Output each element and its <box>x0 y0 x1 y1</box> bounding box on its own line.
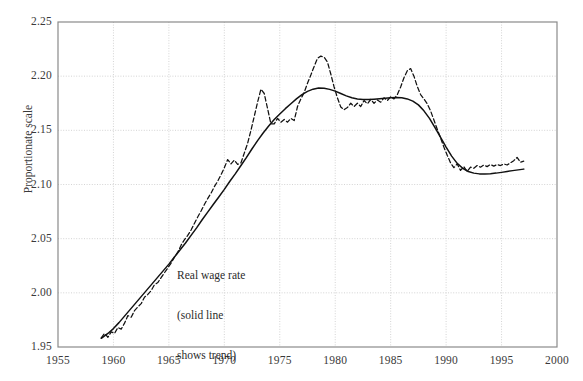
x-tick-label: 1990 <box>432 354 460 366</box>
x-tick-label: 1975 <box>266 354 294 366</box>
x-tick-label: 1960 <box>99 354 127 366</box>
y-tick-label: 1.95 <box>24 340 52 352</box>
series-line-1 <box>101 88 523 338</box>
gridlines <box>58 22 557 347</box>
series-annotation: Real wage rate (solid line shows trend) <box>177 243 245 381</box>
y-tick-label: 2.20 <box>24 69 52 81</box>
series-group <box>101 56 523 338</box>
annotation-line-2: (solid line <box>177 309 245 322</box>
y-axis-title: Proportionate scale <box>22 74 34 224</box>
y-tick-label: 2.25 <box>24 15 52 27</box>
chart-canvas <box>0 0 583 381</box>
y-tick-label: 2.15 <box>24 123 52 135</box>
series-line-0 <box>101 56 523 338</box>
x-tick-label: 1980 <box>321 354 349 366</box>
y-tick-label: 2.00 <box>24 286 52 298</box>
x-tick-label: 2000 <box>543 354 571 366</box>
chart-figure: Proportionate scale 19551960196519701975… <box>0 0 583 381</box>
annotation-line-3: shows trend) <box>177 349 245 362</box>
y-tick-label: 2.05 <box>24 232 52 244</box>
annotation-line-1: Real wage rate <box>177 269 245 282</box>
x-tick-label: 1995 <box>488 354 516 366</box>
x-tick-label: 1985 <box>377 354 405 366</box>
x-tick-label: 1955 <box>44 354 72 366</box>
y-tick-label: 2.10 <box>24 178 52 190</box>
